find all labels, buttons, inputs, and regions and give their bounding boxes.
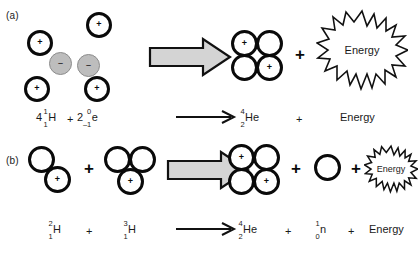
proton-circle: + [86, 12, 112, 38]
tritium-proton-circle: + [117, 168, 144, 195]
helium-proton-circle: + [256, 54, 283, 81]
proton-circle: + [27, 30, 53, 56]
mass-number: 0 [87, 108, 91, 116]
plus-sign: + [295, 46, 305, 63]
energy-burst-icon: Energy [316, 8, 408, 92]
equation-plus: + [348, 226, 354, 237]
proton-circle: + [24, 76, 50, 102]
equation-reactant-electron: 20–1e [77, 112, 98, 123]
mass-number: 2 [48, 220, 52, 228]
mass-number: 3 [123, 220, 127, 228]
equation-plus: + [86, 226, 92, 237]
proton-circle: + [84, 76, 110, 102]
proton-sign: + [37, 38, 42, 47]
helium-neutron-circle [253, 144, 280, 171]
energy-label: Energy [364, 164, 418, 174]
electron-sign: – [86, 61, 91, 70]
process-arrow-icon [148, 37, 232, 81]
equation-reactant-hydrogen: 411H [36, 112, 56, 123]
proton-sign: + [55, 175, 60, 184]
atomic-number: 1 [48, 233, 52, 241]
element-symbol: He [243, 223, 257, 235]
free-neutron-circle [314, 154, 341, 181]
mass-number: 1 [315, 220, 319, 228]
plus-sign: + [351, 160, 361, 177]
equation-energy-label: Energy [340, 112, 375, 123]
equation-plus: + [296, 114, 302, 125]
electron-circle: – [49, 52, 72, 75]
equation-plus: + [67, 114, 73, 125]
helium-neutron-circle [231, 54, 258, 81]
panel-a-label: (a) [6, 10, 19, 21]
equation-reactant-tritium: 31H [123, 224, 136, 235]
panel-b-label: (b) [6, 155, 19, 166]
helium-neutron-circle [228, 168, 255, 195]
equation-plus: + [285, 226, 291, 237]
proton-sign: + [267, 63, 272, 72]
proton-sign: + [239, 153, 244, 162]
energy-burst-icon: Energy [364, 140, 418, 198]
equation-product-helium: 42He [238, 224, 257, 235]
plus-sign: + [84, 160, 94, 177]
proton-sign: + [94, 84, 99, 93]
equation-product-helium: 42He [240, 112, 259, 123]
proton-sign: + [264, 177, 269, 186]
proton-sign: + [34, 84, 39, 93]
atomic-number: 0 [315, 233, 319, 241]
coefficient: 4 [36, 111, 42, 123]
equation-energy-label: Energy [369, 224, 404, 235]
element-symbol: H [128, 223, 136, 235]
helium-neutron-circle [256, 30, 283, 57]
panel-b-deuterium-tritium-fusion: (b) + + + + + + + Energy 21H + 31H [0, 128, 416, 255]
element-symbol: n [320, 223, 326, 235]
element-symbol: e [92, 111, 98, 123]
panel-a-hydrogen-fusion: (a) + + + + – – + + + Energy 411H [0, 0, 416, 128]
deuterium-proton-circle: + [44, 166, 71, 193]
plus-sign: + [291, 160, 301, 177]
atomic-number: 1 [123, 233, 127, 241]
electron-circle: – [77, 54, 100, 77]
helium-proton-circle: + [228, 144, 255, 171]
atomic-number: 2 [238, 233, 242, 241]
equation-product-neutron: 10n [315, 224, 326, 235]
helium-proton-circle: + [253, 168, 280, 195]
equation-arrow-icon [176, 222, 238, 240]
proton-sign: + [242, 39, 247, 48]
mass-number: 4 [240, 108, 244, 116]
element-symbol: H [53, 223, 61, 235]
electron-sign: – [58, 59, 63, 68]
element-symbol: H [48, 111, 56, 123]
element-symbol: He [245, 111, 259, 123]
equation-arrow-icon [176, 110, 238, 128]
proton-sign: + [96, 20, 101, 29]
equation-reactant-deuterium: 21H [48, 224, 61, 235]
energy-label: Energy [316, 44, 408, 56]
mass-number: 1 [44, 108, 48, 116]
proton-sign: + [128, 177, 133, 186]
helium-proton-circle: + [231, 30, 258, 57]
mass-number: 4 [238, 220, 242, 228]
